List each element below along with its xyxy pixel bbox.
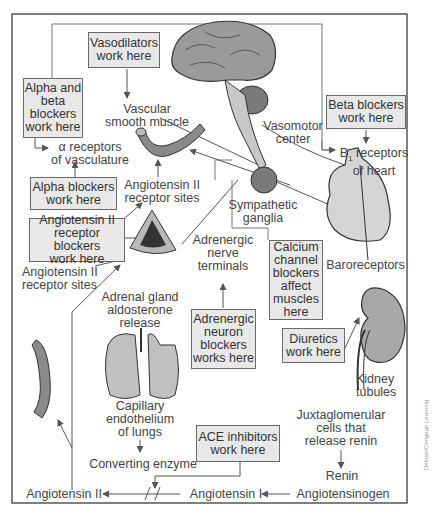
sympathetic-ganglia-illustration — [251, 167, 277, 193]
baroreceptors-label: Baroreceptors — [323, 259, 408, 272]
capillary-endothelium-label: Capillary endothelium of lungs — [105, 400, 175, 439]
b1-receptors-label: B1 receptorsof heart — [334, 147, 414, 178]
angiotensin-i-label: Angiotensin I — [188, 488, 264, 501]
kidney-tubules-label: Kidney tubules — [356, 373, 406, 399]
alpha-receptors-label: α receptors of vasculature — [50, 141, 130, 167]
lungs-illustration — [105, 328, 178, 399]
renin-label: Renin — [320, 470, 364, 483]
adrenal-gland-illustration — [130, 210, 176, 254]
adrenergic-neuron-blockers-box: Adrenergic neuron blockers works here — [191, 309, 256, 369]
alpha-blockers-box: Alpha blockers work here — [30, 177, 117, 210]
vasodilators-box: Vasodilators work here — [88, 32, 160, 68]
ace-inhibitors-box: ACE inhibitors work here — [196, 425, 280, 462]
vascular-smooth-muscle-label: Vascular smooth muscle — [92, 103, 202, 129]
adrenergic-nerve-terminals-label: Adrenergic nerve terminals — [187, 234, 259, 273]
sympathetic-ganglia-label: Sympathetic ganglia — [228, 199, 298, 225]
brain-illustration — [172, 21, 276, 170]
angiotensin-ii-receptor-sites-label-top: Angiotensin II receptor sites — [122, 179, 202, 205]
angiotensinogen-label: Angiotensinogen — [293, 488, 393, 501]
angiotensin-ii-receptor-sites-label-bottom: Angiotensin II receptor sites — [22, 266, 104, 292]
arb-box: Angiotensin II receptor blockers work he… — [29, 218, 125, 262]
credit-text: Delmar/Cengage Learning — [423, 400, 429, 470]
calcium-channel-blockers-box: Calcium channel blockers affect muscles … — [269, 240, 323, 320]
adrenal-gland-label: Adrenal gland aldosterone release — [95, 291, 185, 330]
diuretics-box: Diuretics work here — [282, 328, 345, 363]
diagram-canvas: Vasodilators work here Alpha and beta bl… — [0, 0, 442, 519]
beta-blockers-box: Beta blockers work here — [326, 95, 406, 129]
converting-enzyme-label: Converting enzyme — [88, 458, 198, 471]
juxtaglomerular-cells-label: Juxtaglomerular cells that release renin — [296, 409, 386, 448]
vasomotor-center-label: Vasomotor center — [258, 120, 328, 146]
angiotensin-ii-label: Angiotensin II — [24, 488, 104, 501]
lower-vessel-illustration — [32, 340, 50, 418]
alpha-beta-blockers-box: Alpha and beta blockers work here — [23, 78, 83, 138]
